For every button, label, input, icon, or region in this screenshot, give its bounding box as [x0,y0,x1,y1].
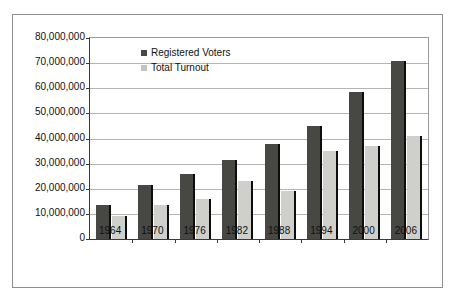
y-axis-tick-label: 70,000,000 [35,57,85,67]
legend-swatch-icon [141,50,147,56]
y-axis-tick-mark [86,189,90,190]
y-axis-tick-mark [86,38,90,39]
x-axis-tick-mark [175,239,176,243]
legend-item-registered-voters: Registered Voters [141,45,231,60]
y-axis-tick-label: 40,000,000 [35,133,85,143]
gridline [90,113,428,114]
x-axis-tick-label: 1964 [90,225,130,236]
x-axis-tick-label: 2000 [344,225,384,236]
y-axis-tick-mark [86,63,90,64]
x-axis-tick-mark [132,239,133,243]
y-axis-tick-mark [86,88,90,89]
y-axis-tick-label: 20,000,000 [35,183,85,193]
legend-item-label: Total Turnout [151,62,209,73]
legend-swatch-icon [141,65,147,71]
bar-registered-voters-2000 [349,92,364,239]
x-axis-tick-label: 1970 [132,225,172,236]
y-axis-tick-mark [86,113,90,114]
x-axis-tick-label: 1976 [175,225,215,236]
y-axis-tick-mark [86,139,90,140]
plot-area [89,37,429,240]
y-axis-tick-label: 50,000,000 [35,107,85,117]
x-axis-tick-label: 1994 [301,225,341,236]
y-axis-tick-mark [86,164,90,165]
x-axis-tick-label: 2006 [386,225,426,236]
x-axis-tick-label: 1982 [217,225,257,236]
chart-frame: 010,000,00020,000,00030,000,00040,000,00… [12,14,443,288]
chart-legend: Registered VotersTotal Turnout [141,45,231,75]
x-axis-tick-mark [386,239,387,243]
y-axis-tick-label: 80,000,000 [35,32,85,42]
bar-registered-voters-1994 [307,126,322,239]
gridline [90,88,428,89]
y-axis-tick-label: 10,000,000 [35,208,85,218]
y-axis-tick-label: 60,000,000 [35,82,85,92]
gridline [90,139,428,140]
y-axis-tick-mark [86,239,90,240]
x-axis-tick-label: 1988 [259,225,299,236]
x-axis-tick-mark [259,239,260,243]
x-axis-tick-mark [301,239,302,243]
legend-item-total-turnout: Total Turnout [141,60,231,75]
legend-item-label: Registered Voters [151,47,231,58]
x-axis-tick-mark [217,239,218,243]
x-axis-tick-mark [344,239,345,243]
y-axis-tick-label: 0 [79,233,85,243]
bar-registered-voters-2006 [391,61,406,239]
bar-total-turnout-2006 [407,136,422,239]
y-axis-tick-labels: 010,000,00020,000,00030,000,00040,000,00… [13,15,85,289]
y-axis-tick-mark [86,214,90,215]
y-axis-tick-label: 30,000,000 [35,158,85,168]
